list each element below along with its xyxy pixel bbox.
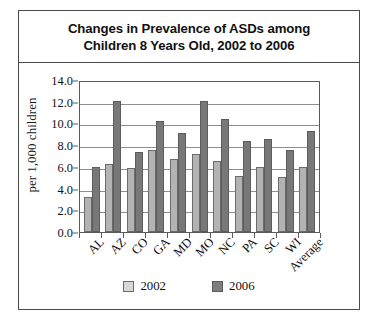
bar-al-2002 <box>84 197 92 232</box>
x-axis-label-mo: MO <box>193 235 218 260</box>
y-axis-tick-label: 6.0 <box>58 160 74 175</box>
bar-pa-2002 <box>235 176 243 232</box>
legend-swatch-2002-icon <box>123 281 134 292</box>
y-axis-tick-mark <box>73 81 78 82</box>
y-axis-tick-mark <box>73 233 78 234</box>
chart-legend: 2002 2006 <box>19 279 359 294</box>
legend-label-2002: 2002 <box>140 279 166 294</box>
bar-md-2006 <box>178 133 186 232</box>
x-axis-label-az: AZ <box>107 235 129 257</box>
y-axis-tick-labels: 14.012.010.08.06.04.02.00.0 <box>19 81 77 233</box>
bar-ga-2006 <box>156 121 164 232</box>
bar-ga-2002 <box>148 150 156 233</box>
bar-groups <box>80 82 319 232</box>
bar-co-2006 <box>135 152 143 232</box>
y-axis-tick-mark <box>73 189 78 190</box>
x-axis-label-al: AL <box>85 235 107 257</box>
legend-item-2006: 2006 <box>212 279 255 294</box>
bar-group <box>167 82 189 232</box>
bar-group <box>81 82 103 232</box>
bar-wi-2006 <box>286 150 294 233</box>
bar-nc-2002 <box>213 161 221 232</box>
bar-mo-2002 <box>192 154 200 232</box>
bar-group <box>146 82 168 232</box>
x-axis-label-nc: NC <box>216 235 239 258</box>
bar-group <box>253 82 275 232</box>
x-axis-label-ga: GA <box>150 235 173 258</box>
x-axis-label-md: MD <box>171 235 196 260</box>
y-axis-tick-label: 14.0 <box>51 74 73 89</box>
y-axis-tick-label: 12.0 <box>51 95 73 110</box>
bar-md-2002 <box>170 159 178 232</box>
bar-al-2006 <box>92 167 100 232</box>
y-axis-tick-label: 8.0 <box>58 139 74 154</box>
x-axis-label-co: CO <box>129 235 152 258</box>
bar-group <box>210 82 232 232</box>
bar-group <box>296 82 318 232</box>
chart-title-line-1: Changes in Prevalence of ASDs among <box>68 20 310 37</box>
legend-swatch-2006-icon <box>212 281 223 292</box>
bar-az-2002 <box>105 164 113 232</box>
bar-nc-2006 <box>221 119 229 232</box>
y-axis-tick-label: 0.0 <box>58 226 74 241</box>
legend-item-2002: 2002 <box>123 279 166 294</box>
bar-group <box>232 82 254 232</box>
bar-sc-2002 <box>256 167 264 232</box>
y-axis-tick-label: 4.0 <box>58 182 74 197</box>
y-axis-tick-label: 10.0 <box>51 117 73 132</box>
y-axis-tick-mark <box>73 124 78 125</box>
chart-figure: Changes in Prevalence of ASDs among Chil… <box>18 10 360 310</box>
bar-az-2006 <box>113 101 121 232</box>
chart-title-line-2: Children 8 Years Old, 2002 to 2006 <box>83 37 294 54</box>
x-axis-tick-mark <box>320 233 321 238</box>
x-axis-category-labels: ALAZCOGAMDMONCPASCWIAverage <box>79 235 320 281</box>
bar-group <box>275 82 297 232</box>
bar-pa-2006 <box>243 141 251 232</box>
chart-title-band: Changes in Prevalence of ASDs among Chil… <box>19 11 359 63</box>
chart-body: per 1,000 children 14.012.010.08.06.04.0… <box>19 63 359 310</box>
bar-group <box>103 82 125 232</box>
y-axis-tick-label: 2.0 <box>58 204 74 219</box>
x-axis-label-pa: PA <box>239 235 260 256</box>
y-axis-tick-mark <box>73 102 78 103</box>
bar-mo-2006 <box>200 101 208 232</box>
y-axis-tick-mark <box>73 211 78 212</box>
y-axis-tick-mark <box>73 146 78 147</box>
bar-wi-2002 <box>278 177 286 232</box>
plot-area <box>79 81 320 233</box>
legend-label-2006: 2006 <box>229 279 255 294</box>
bar-average-2006 <box>307 131 315 232</box>
bar-group <box>124 82 146 232</box>
bar-co-2002 <box>127 168 135 232</box>
bar-sc-2006 <box>264 139 272 232</box>
bar-average-2002 <box>299 167 307 232</box>
y-axis-tick-mark <box>73 167 78 168</box>
bar-group <box>189 82 211 232</box>
x-axis-label-sc: SC <box>261 235 283 257</box>
